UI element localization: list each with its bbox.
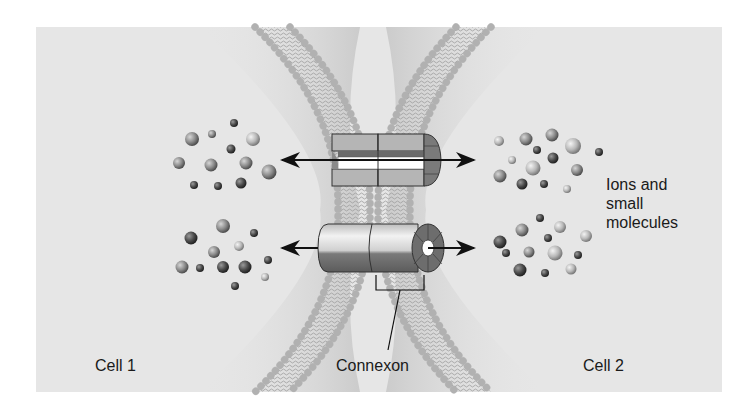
cell-2-label: Cell 2 — [583, 356, 624, 375]
ions-label-line-1: Ions and — [606, 175, 726, 194]
molecule-cluster-cell-1-upper — [173, 119, 277, 190]
molecule-cluster-cell-1-lower — [176, 219, 273, 290]
cell-1-label: Cell 1 — [95, 356, 136, 375]
connexon-channel-intact — [318, 224, 444, 272]
ions-and-small-molecules-label: Ions and small molecules — [606, 175, 726, 232]
molecule-cluster-cell-2-upper — [494, 129, 604, 194]
molecule-cluster-cell-2-lower — [494, 214, 593, 277]
ions-label-line-2: small — [606, 194, 726, 213]
ions-label-line-3: molecules — [606, 213, 726, 232]
connexon-label: Connexon — [336, 356, 409, 375]
